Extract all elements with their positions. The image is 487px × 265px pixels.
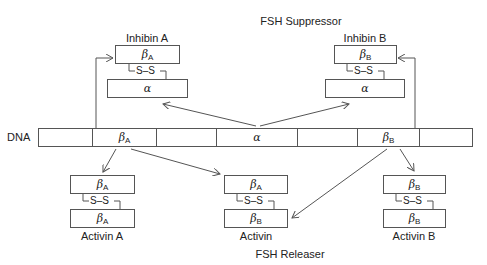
inhibin-a-label: Inhibin A [126,32,168,44]
inhibin-a-alpha-subunit: α [107,79,188,98]
activin-a-disulfide-bond: S–S [90,195,109,206]
inhibin-b-label: Inhibin B [344,32,387,44]
inhibin-b-disulfide-bond: S–S [354,65,373,76]
dna-bar: βA α βB [38,128,473,147]
inhibin-b-alpha-subunit: α [325,79,405,98]
activin-b-label: Activin B [393,230,436,242]
dna-segment-7 [420,129,472,146]
activin-ab-top-subunit: βA [224,175,288,194]
activin-a-top-subunit: βA [70,175,135,194]
activin-ab-label: Activin [240,230,272,242]
fsh-releaser-title: FSH Releaser [255,248,324,260]
activin-b-disulfide-bond: S–S [403,195,422,206]
arrow-betaa-to-activin [131,149,220,174]
activin-ab-bottom-subunit: βB [224,209,288,228]
arrow-betab-to-activin [292,149,387,218]
arrow-alpha-to-inhibin-a [163,104,256,126]
dna-segment-3 [157,129,217,146]
dna-segment-5 [298,129,358,146]
activin-a-label: Activin A [81,230,123,242]
arrow-betaa-to-activin-a [103,149,116,172]
dna-segment-beta-a: βA [93,129,157,146]
inhibin-a-disulfide-bond: S–S [136,65,155,76]
dna-segment-beta-b: βB [358,129,420,146]
dna-segment-1 [39,129,93,146]
arrow-betab-to-activin-b [400,149,414,171]
activin-ab-disulfide-bond: S–S [244,195,263,206]
activin-a-bottom-subunit: βA [70,209,135,228]
dna-label: DNA [7,131,30,143]
fsh-suppressor-title: FSH Suppressor [260,15,341,27]
activin-b-top-subunit: βB [383,175,446,194]
arrow-alpha-to-inhibin-b [260,104,349,126]
inhibin-b-beta-subunit: βB [334,45,397,64]
activin-b-bottom-subunit: βB [383,209,446,228]
dna-segment-alpha: α [217,129,298,146]
inhibin-a-beta-subunit: βA [115,45,180,64]
